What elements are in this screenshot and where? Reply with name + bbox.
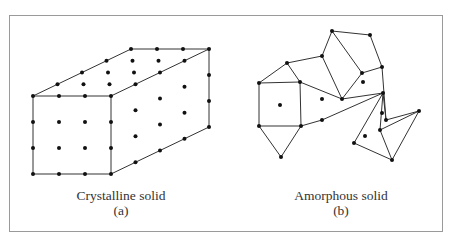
caption-a-label: (a) xyxy=(46,203,196,218)
caption-b-title: Amorphous solid xyxy=(266,188,416,203)
caption-a-title: Crystalline solid xyxy=(46,188,196,203)
amorphous-network xyxy=(257,29,421,162)
crystalline-lattice xyxy=(31,47,211,176)
caption-b-label: (b) xyxy=(266,203,416,218)
caption-crystalline: Crystalline solid (a) xyxy=(46,188,196,218)
caption-amorphous: Amorphous solid (b) xyxy=(266,188,416,218)
